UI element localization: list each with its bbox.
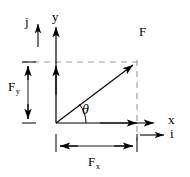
- force-vector-arrow: [56, 65, 133, 123]
- fy-component-label-main: F: [8, 79, 15, 94]
- construction-dashed-lines: [22, 60, 140, 141]
- unit-vector-i-label: i: [170, 127, 174, 140]
- unit-vector-j-label: j: [25, 15, 29, 28]
- force-vector: [56, 65, 133, 123]
- fy-dimension: [22, 62, 36, 123]
- coordinate-axes: [56, 27, 154, 123]
- y-axis-label: y: [52, 10, 59, 23]
- fy-component-label: Fy: [8, 80, 19, 93]
- force-vector-diagram: j y F x i θ Fy Fx: [0, 0, 190, 177]
- angle-theta-label: θ: [82, 103, 89, 117]
- fx-component-label-main: F: [88, 154, 95, 169]
- fx-component-label: Fx: [88, 155, 99, 168]
- force-vector-label: F: [139, 25, 146, 38]
- x-axis-label: x: [168, 113, 175, 126]
- fx-component-label-sub: x: [96, 161, 100, 171]
- fy-component-label-sub: y: [16, 86, 20, 96]
- fx-dimension: [56, 134, 137, 152]
